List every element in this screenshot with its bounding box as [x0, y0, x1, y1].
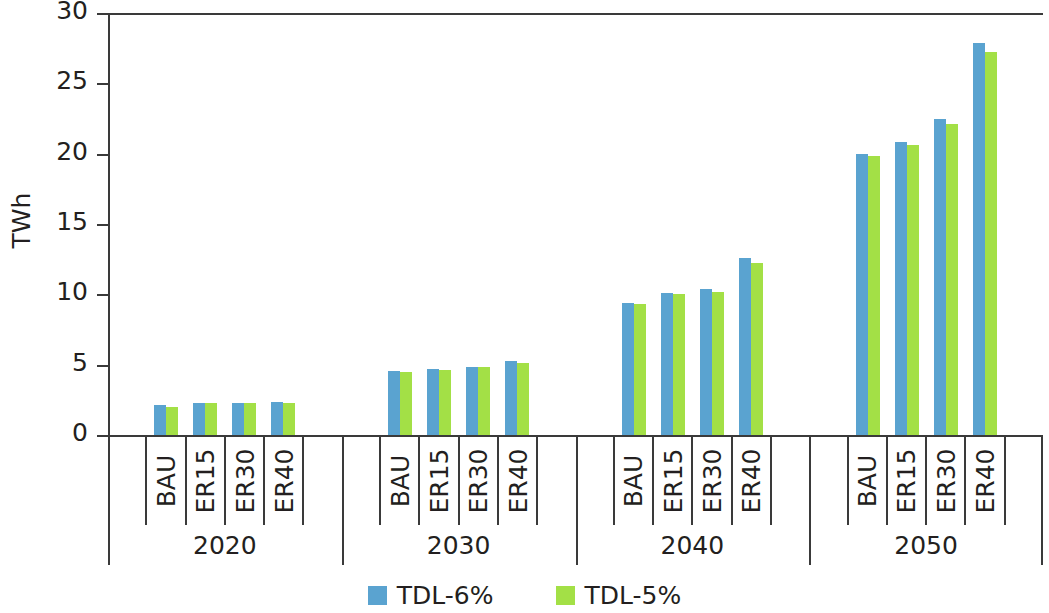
x-axis-cell-ER30: ER30 — [693, 437, 732, 525]
y-axis-tick-mark — [97, 365, 108, 367]
x-axis-group-2020: BAUER15ER30ER402020 — [108, 437, 342, 565]
x-axis-cell-empty — [809, 437, 848, 525]
x-axis-cell-BAU: BAU — [615, 437, 654, 525]
x-axis-cell-label: BAU — [853, 455, 882, 508]
bar-2050-ER30-TDL-6% — [934, 119, 946, 436]
y-axis-tick-label: 25 — [56, 66, 88, 95]
x-axis-cell-label: BAU — [385, 455, 414, 508]
bar-2050-ER15-TDL-6% — [895, 142, 907, 435]
x-axis-cell-label: BAU — [619, 455, 648, 508]
x-axis-cell-ER15: ER15 — [654, 437, 693, 525]
y-axis-tick-label: 5 — [72, 348, 88, 377]
x-axis-cell-label: ER40 — [971, 449, 1000, 514]
y-axis-title-text: TWh — [8, 192, 37, 248]
legend: TDL-6%TDL-5% — [0, 578, 1049, 612]
bar-2030-ER15-TDL-5% — [439, 370, 451, 435]
x-axis-group-separator — [576, 437, 578, 565]
bar-chart: TWh 302520151050 BAUER15ER30ER402020BAUE… — [0, 0, 1049, 613]
x-axis-cell-label: ER40 — [503, 449, 532, 514]
x-axis-cell-ER30: ER30 — [226, 437, 265, 525]
bar-2020-BAU-TDL-6% — [154, 405, 166, 435]
x-axis-cell-label: ER40 — [269, 449, 298, 514]
y-axis-tick-label: 20 — [56, 137, 88, 166]
green-square-swatch — [556, 586, 575, 605]
legend-item-TDL-6%[interactable]: TDL-6% — [368, 581, 494, 610]
x-axis-cell-ER40: ER40 — [265, 437, 304, 525]
x-axis-cell-label: ER15 — [658, 449, 687, 514]
x-axis-group-separator — [342, 437, 344, 565]
bar-2040-ER15-TDL-5% — [673, 294, 685, 435]
blue-square-swatch — [368, 586, 387, 605]
bar-2020-ER30-TDL-6% — [232, 403, 244, 435]
x-axis-cell-ER15: ER15 — [420, 437, 459, 525]
bar-2020-ER40-TDL-6% — [271, 402, 283, 435]
x-axis-group-label: 2050 — [809, 525, 1043, 565]
bar-2030-BAU-TDL-5% — [400, 372, 412, 435]
x-axis-cell-ER40: ER40 — [499, 437, 538, 525]
x-axis-left-edge — [108, 437, 110, 565]
y-axis-tick-label: 30 — [56, 0, 88, 25]
x-axis-cell-ER40: ER40 — [733, 437, 772, 525]
legend-item-TDL-5%[interactable]: TDL-5% — [556, 581, 682, 610]
bar-2030-ER40-TDL-6% — [505, 361, 517, 435]
x-axis-cell-label: ER30 — [230, 449, 259, 514]
x-axis-cell-label: ER15 — [191, 449, 220, 514]
bar-2030-BAU-TDL-6% — [388, 371, 400, 435]
y-axis-tick-mark — [97, 224, 108, 226]
bar-2050-ER15-TDL-5% — [907, 145, 919, 435]
bar-2050-ER30-TDL-5% — [946, 124, 958, 435]
bar-2050-BAU-TDL-6% — [856, 154, 868, 435]
x-axis-cell-empty — [304, 437, 341, 525]
x-axis-cell-ER15: ER15 — [187, 437, 226, 525]
x-axis-cell-empty — [342, 437, 381, 525]
bar-2050-ER40-TDL-6% — [973, 43, 985, 435]
y-axis-title: TWh — [2, 175, 42, 265]
y-axis-tick-label: 0 — [72, 418, 88, 447]
bar-2050-ER40-TDL-5% — [985, 52, 997, 435]
y-axis-tick-label: 15 — [56, 207, 88, 236]
x-axis-cell-empty — [576, 437, 615, 525]
x-axis-cell-label: BAU — [151, 455, 180, 508]
x-axis-group-cells: BAUER15ER30ER40 — [809, 437, 1043, 525]
x-axis-cell-label: ER40 — [737, 449, 766, 514]
x-axis-group-cells: BAUER15ER30ER40 — [342, 437, 576, 525]
bar-2020-ER15-TDL-5% — [205, 403, 217, 435]
y-axis-tick-mark — [97, 435, 108, 437]
bars-layer — [108, 13, 1043, 437]
x-axis-cell-ER15: ER15 — [888, 437, 927, 525]
y-axis-tick-label: 10 — [56, 277, 88, 306]
bar-2040-ER40-TDL-6% — [739, 258, 751, 435]
x-axis-group-2050: BAUER15ER30ER402050 — [809, 437, 1043, 565]
x-axis-cell-ER30: ER30 — [460, 437, 499, 525]
y-axis-tick-mark — [97, 294, 108, 296]
bar-2050-BAU-TDL-5% — [868, 156, 880, 435]
x-axis-group-label: 2040 — [576, 525, 810, 565]
bar-2020-ER15-TDL-6% — [193, 403, 205, 435]
bar-2020-ER40-TDL-5% — [283, 403, 295, 435]
bar-2030-ER40-TDL-5% — [517, 363, 529, 435]
legend-item-label: TDL-6% — [397, 581, 494, 610]
bar-2030-ER15-TDL-6% — [427, 369, 439, 435]
x-axis-cell-empty — [108, 437, 147, 525]
x-axis-cell-empty — [1006, 437, 1043, 525]
y-axis-tick-mark — [97, 13, 108, 15]
x-axis-group-2040: BAUER15ER30ER402040 — [576, 437, 810, 565]
bar-2040-ER40-TDL-5% — [751, 263, 763, 435]
x-axis-cell-BAU: BAU — [381, 437, 420, 525]
x-axis-right-edge — [1041, 437, 1043, 565]
bar-2040-BAU-TDL-6% — [622, 303, 634, 435]
x-axis-cell-ER30: ER30 — [927, 437, 966, 525]
x-axis-cell-empty — [772, 437, 809, 525]
x-axis-group-cells: BAUER15ER30ER40 — [576, 437, 810, 525]
bar-2040-BAU-TDL-5% — [634, 304, 646, 435]
y-axis-tick-mark — [97, 154, 108, 156]
x-axis-cell-label: ER15 — [424, 449, 453, 514]
bar-2040-ER30-TDL-5% — [712, 292, 724, 435]
legend-item-label: TDL-5% — [585, 581, 682, 610]
x-axis-cell-empty — [538, 437, 575, 525]
x-axis-cell-label: ER30 — [931, 449, 960, 514]
bar-2030-ER30-TDL-5% — [478, 367, 490, 435]
x-axis-cell-label: ER15 — [892, 449, 921, 514]
bar-2020-ER30-TDL-5% — [244, 403, 256, 435]
x-axis-cell-label: ER30 — [464, 449, 493, 514]
